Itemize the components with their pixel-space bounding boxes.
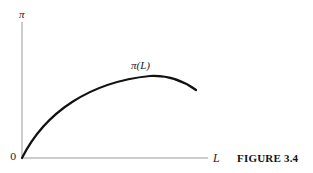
y-axis-label: π [19,8,25,20]
figure-caption: FIGURE 3.4 [237,152,298,164]
curve-label: π(L) [131,59,150,71]
figure-canvas [0,0,313,173]
origin-label: 0 [10,151,16,162]
profit-curve [22,76,196,158]
x-axis-label: L [213,151,220,166]
